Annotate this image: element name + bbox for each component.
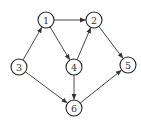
edge-4-to-2 (77, 28, 91, 60)
node-6: 6 (66, 100, 82, 116)
node-5: 5 (120, 57, 136, 73)
nodes-layer: 123456 (11, 12, 136, 116)
node-3: 3 (11, 59, 27, 75)
edge-3-to-1 (23, 27, 42, 60)
node-label: 5 (125, 60, 131, 71)
directed-graph-diagram: 123456 (0, 0, 141, 127)
node-4: 4 (66, 59, 82, 75)
edge-2-to-5 (99, 26, 123, 58)
node-1: 1 (38, 12, 54, 28)
node-2: 2 (86, 12, 102, 28)
node-label: 4 (71, 62, 77, 73)
node-label: 6 (71, 103, 77, 114)
edge-3-to-6 (25, 72, 67, 103)
edge-6-to-5 (80, 70, 121, 103)
node-label: 1 (43, 15, 49, 26)
node-label: 3 (16, 62, 22, 73)
node-label: 2 (91, 15, 97, 26)
edge-1-to-4 (50, 27, 70, 60)
